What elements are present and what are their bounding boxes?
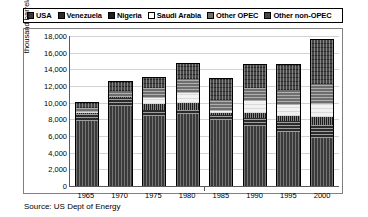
x-tick-text-1965: 1965 (78, 191, 95, 200)
bar-segment-venezuela-1965[interactable] (76, 114, 98, 122)
bar-segment-usa-2000[interactable] (311, 138, 333, 186)
legend-label-other-non-opec: Other non-OPEC (273, 11, 331, 20)
bar-segment-other-non-opec-1985[interactable] (210, 79, 232, 100)
y-tick-label-4000: 4,000 (48, 148, 67, 157)
bar-segment-usa-1995[interactable] (277, 132, 299, 186)
x-tick-mark-2000 (204, 187, 205, 191)
bar-group-1990 (238, 36, 272, 186)
bar-segment-other-non-opec-1975[interactable] (143, 78, 165, 89)
bar-group-1970 (104, 36, 138, 186)
plot-area (69, 36, 339, 187)
bar-segment-other-opec-1980[interactable] (177, 79, 199, 92)
legend-swatch-saudi-icon (148, 12, 155, 19)
bar-segment-saudi-2000[interactable] (311, 104, 333, 117)
bar-group-1965 (70, 36, 104, 186)
bar-group-1975 (137, 36, 171, 186)
bar-segment-other-opec-1975[interactable] (143, 88, 165, 98)
bar-series-container (70, 36, 339, 186)
bar-segment-saudi-1990[interactable] (244, 101, 266, 112)
bar-stack-1975[interactable] (142, 77, 166, 186)
legend-item-venezuela: Venezuela (58, 11, 102, 20)
bar-stack-1995[interactable] (276, 64, 300, 186)
bar-segment-venezuela-1995[interactable] (277, 121, 299, 132)
bar-segment-usa-1965[interactable] (76, 121, 98, 186)
x-tick-label-1965: 1965 (69, 191, 103, 200)
x-tick-text-1985: 1985 (213, 191, 230, 200)
y-tick-label-10000: 10,000 (44, 98, 67, 107)
x-tick-label-1985: 1985 (204, 191, 238, 200)
bar-segment-usa-1990[interactable] (244, 126, 266, 186)
bar-group-1985 (205, 36, 239, 186)
x-tick-text-1980: 1980 (179, 191, 196, 200)
x-tick-text-1990: 1990 (246, 191, 263, 200)
x-tick-label-1990: 1990 (238, 191, 272, 200)
bar-segment-other-non-opec-1990[interactable] (244, 65, 266, 88)
chart-legend: USAVenezuelaNigeriaSaudi ArabiaOther OPE… (23, 8, 343, 23)
bar-group-1995 (272, 36, 306, 186)
y-tick-label-8000: 8,000 (48, 115, 67, 124)
legend-label-usa: USA (36, 11, 52, 20)
bar-segment-other-non-opec-1980[interactable] (177, 64, 199, 80)
source-note: Source: US Dept of Energy (24, 202, 121, 211)
bar-segment-venezuela-2000[interactable] (311, 125, 333, 138)
bar-segment-venezuela-1990[interactable] (244, 118, 266, 126)
y-tick-label-2000: 2,000 (48, 165, 67, 174)
legend-swatch-other-opec-icon (207, 12, 214, 19)
legend-swatch-nigeria-icon (108, 12, 115, 19)
x-tick-text-1975: 1975 (145, 191, 162, 200)
bar-segment-other-non-opec-1970[interactable] (109, 82, 131, 91)
bar-segment-nigeria-2000[interactable] (311, 117, 333, 125)
bar-group-1980 (171, 36, 205, 186)
bar-stack-1965[interactable] (75, 102, 99, 186)
legend-label-other-opec: Other OPEC (216, 11, 258, 20)
bar-stack-2000[interactable] (310, 39, 334, 186)
y-tick-label-12000: 12,000 (44, 82, 67, 91)
bar-segment-other-opec-1985[interactable] (210, 100, 232, 111)
legend-label-saudi: Saudi Arabia (157, 11, 201, 20)
y-tick-label-0: 0 (63, 182, 67, 191)
bar-segment-usa-1975[interactable] (143, 116, 165, 186)
x-tick-label-1970: 1970 (103, 191, 137, 200)
legend-label-venezuela: Venezuela (67, 11, 102, 20)
bar-stack-1980[interactable] (176, 63, 200, 186)
bar-group-2000 (305, 36, 339, 186)
bar-segment-usa-1985[interactable] (210, 120, 232, 186)
bar-stack-1990[interactable] (243, 64, 267, 186)
legend-label-nigeria: Nigeria (117, 11, 142, 20)
bar-stack-1985[interactable] (209, 78, 233, 186)
x-tick-text-2000: 2000 (314, 191, 331, 200)
bar-segment-usa-1970[interactable] (109, 106, 131, 186)
bar-segment-venezuela-1970[interactable] (109, 98, 131, 106)
legend-swatch-other-non-opec-icon (264, 12, 271, 19)
chart-frame: thousand barrel/day 18,00016,00014,00012… (23, 28, 343, 194)
bar-segment-saudi-1995[interactable] (277, 105, 299, 116)
y-axis-tick-labels: 18,00016,00014,00012,00010,0008,0006,000… (35, 29, 67, 193)
x-tick-label-2000: 2000 (305, 191, 339, 200)
y-axis-title: thousand barrel/day (22, 0, 31, 75)
bar-segment-other-non-opec-1995[interactable] (277, 65, 299, 90)
bar-segment-other-opec-1990[interactable] (244, 88, 266, 102)
x-tick-label-1980: 1980 (170, 191, 204, 200)
y-tick-label-6000: 6,000 (48, 132, 67, 141)
bar-segment-other-opec-2000[interactable] (311, 84, 333, 104)
legend-swatch-venezuela-icon (58, 12, 65, 19)
legend-item-saudi: Saudi Arabia (148, 11, 201, 20)
bar-segment-other-non-opec-2000[interactable] (311, 40, 333, 84)
x-tick-label-1995: 1995 (272, 191, 306, 200)
legend-item-other-non-opec: Other non-OPEC (264, 11, 331, 20)
y-tick-label-18000: 18,000 (44, 32, 67, 41)
bar-segment-saudi-1980[interactable] (177, 93, 199, 104)
y-tick-label-14000: 14,000 (44, 65, 67, 74)
x-axis-tick-labels: 19651970197519801985199019952000 (69, 191, 339, 200)
x-tick-text-1995: 1995 (280, 191, 297, 200)
y-tick-label-16000: 16,000 (44, 48, 67, 57)
bar-segment-other-opec-1995[interactable] (277, 90, 299, 104)
bar-segment-nigeria-1980[interactable] (177, 103, 199, 110)
x-tick-text-1970: 1970 (111, 191, 128, 200)
legend-item-nigeria: Nigeria (108, 11, 142, 20)
x-tick-label-1975: 1975 (137, 191, 171, 200)
legend-item-other-opec: Other OPEC (207, 11, 258, 20)
bar-segment-usa-1980[interactable] (177, 114, 199, 186)
bar-stack-1970[interactable] (108, 81, 132, 186)
